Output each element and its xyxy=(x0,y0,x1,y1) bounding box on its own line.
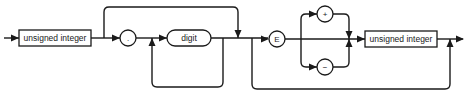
exponent-bypass-arrow-up xyxy=(447,39,454,47)
digit-label: digit xyxy=(181,33,197,43)
minus-branch-out xyxy=(333,39,349,67)
e-terminal: E xyxy=(269,31,285,47)
arrow-to-e xyxy=(261,36,269,43)
arrow-to-dot xyxy=(112,35,120,42)
unsigned-integer-box-1: unsigned integer xyxy=(19,30,91,46)
unsigned-integer-label-2: unsigned integer xyxy=(370,34,433,44)
plus-branch-out xyxy=(333,14,349,39)
arrow-to-box-2 xyxy=(357,36,365,43)
plus-branch-in xyxy=(301,14,317,39)
minus-merge-arrow xyxy=(346,39,353,47)
bypass-arrow-down xyxy=(235,30,242,38)
repeat-arrow-up xyxy=(149,38,156,46)
minus-terminal: − xyxy=(317,59,333,75)
exit-arrow xyxy=(456,36,464,43)
entry-arrow xyxy=(4,35,19,42)
digit-nonterminal: digit xyxy=(167,30,211,46)
syntax-diagram: unsigned integer . digit E xyxy=(0,0,467,94)
dot-terminal: . xyxy=(120,30,136,46)
unsigned-integer-box-2: unsigned integer xyxy=(365,31,437,47)
arrow-to-plus xyxy=(309,11,317,18)
minus-label: − xyxy=(323,63,328,72)
plus-terminal: + xyxy=(317,6,333,22)
arrow-to-minus xyxy=(309,64,317,71)
unsigned-integer-label-1: unsigned integer xyxy=(24,33,87,43)
arrow-to-digit xyxy=(159,35,167,42)
plus-merge-arrow xyxy=(346,31,353,39)
plus-label: + xyxy=(323,10,328,19)
minus-branch-in xyxy=(301,39,317,67)
e-label: E xyxy=(274,35,279,44)
dot-label: . xyxy=(127,34,129,43)
